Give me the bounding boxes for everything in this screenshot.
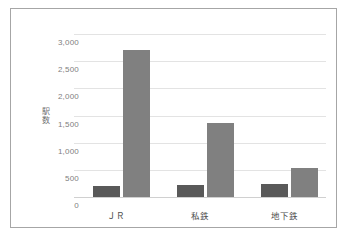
bar-chikatetsu-series-1 <box>261 184 288 197</box>
bar-chikatetsu-series-2 <box>291 168 318 197</box>
bar-shitetsu-series-1 <box>177 185 204 197</box>
bar-group-jr <box>74 34 158 197</box>
bar-shitetsu-series-2 <box>207 123 234 197</box>
bar-group-chikatetsu <box>242 34 326 197</box>
x-tick-label-jr: ＪＲ <box>74 209 158 221</box>
plot-area <box>74 34 326 197</box>
chart-frame: 駅 数 3,000 2,500 2,000 1,500 1,000 500 0 <box>10 8 337 228</box>
x-tick-label-shitetsu: 私鉄 <box>158 209 242 221</box>
bar-jr-series-2 <box>123 50 150 197</box>
x-tick-label-chikatetsu: 地下鉄 <box>242 209 326 221</box>
y-axis-tick-labels: 3,000 2,500 2,000 1,500 1,000 500 0 <box>11 42 79 205</box>
figure: 駅 数 3,000 2,500 2,000 1,500 1,000 500 0 <box>0 0 349 241</box>
bar-jr-series-1 <box>93 186 120 197</box>
bar-group-shitetsu <box>158 34 242 197</box>
axis-baseline <box>74 197 326 198</box>
